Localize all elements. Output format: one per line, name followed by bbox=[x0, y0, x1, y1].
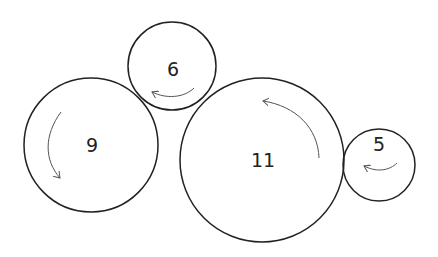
gear-5: 5 bbox=[343, 129, 415, 201]
rotation-arrow-icon bbox=[48, 112, 61, 178]
gear-diagram: 9 6 11 5 bbox=[0, 0, 438, 257]
gear-11: 11 bbox=[180, 78, 344, 242]
rotation-arrow-icon bbox=[152, 88, 194, 97]
gear-diagram-canvas: 9 6 11 5 bbox=[0, 0, 438, 257]
gear-5-label: 5 bbox=[373, 133, 385, 155]
rotation-arrow-icon bbox=[364, 163, 397, 170]
gear-9: 9 bbox=[24, 78, 158, 212]
gear-11-label: 11 bbox=[251, 149, 275, 171]
gear-9-label: 9 bbox=[86, 134, 98, 156]
gear-6: 6 bbox=[128, 22, 216, 110]
gear-6-label: 6 bbox=[167, 58, 179, 80]
